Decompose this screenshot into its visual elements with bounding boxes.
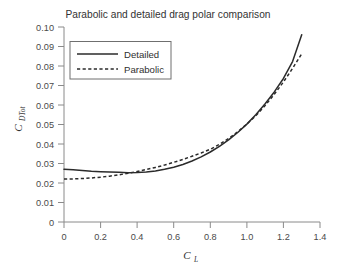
y-tick-label: 0.09	[36, 42, 54, 52]
drag-polar-chart: Parabolic and detailed drag polar compar…	[0, 0, 337, 269]
x-tick-label: 1.2	[277, 232, 290, 242]
y-tick-label: 0.05	[36, 120, 54, 130]
y-tick-label: 0.01	[36, 198, 54, 208]
x-tick-label: 1.4	[314, 232, 327, 242]
chart-legend: Detailed Parabolic	[70, 42, 171, 80]
x-tick-label: 1.0	[241, 232, 254, 242]
y-axis-title-main: C	[12, 124, 24, 132]
chart-title: Parabolic and detailed drag polar compar…	[65, 9, 270, 20]
y-axis-title-sub: DTot	[18, 106, 27, 122]
y-tick-label: 0.08	[36, 62, 54, 72]
x-axis-title-main: C	[183, 249, 191, 261]
y-tick-label: 0.10	[36, 23, 54, 33]
x-tick-label: 0.2	[94, 232, 107, 242]
x-tick-label: 0.4	[131, 232, 144, 242]
x-tick-label: 0	[61, 232, 66, 242]
x-tick-label: 0.8	[204, 232, 217, 242]
x-axis-title: C L	[183, 249, 198, 264]
y-tick-label: 0	[49, 218, 54, 228]
y-tick-label: 0.02	[36, 179, 54, 189]
y-tick-label: 0.03	[36, 159, 54, 169]
chart-figure: Parabolic and detailed drag polar compar…	[0, 0, 337, 269]
x-tick-label: 0.6	[167, 232, 180, 242]
y-tick-label: 0.04	[36, 140, 54, 150]
x-axis-ticks: 0 0.2 0.4 0.6 0.8 1.0 1.2 1.4	[61, 222, 326, 242]
y-tick-label: 0.07	[36, 81, 54, 91]
x-axis-title-sub: L	[193, 255, 198, 264]
y-axis-ticks: 0.10 0.09 0.08 0.07 0.06 0.05 0.04 0.03 …	[36, 23, 64, 228]
y-tick-label: 0.06	[36, 101, 54, 111]
legend-label-detailed: Detailed	[124, 49, 159, 60]
legend-label-parabolic: Parabolic	[124, 64, 164, 75]
y-axis-title: C DTot	[12, 106, 27, 132]
